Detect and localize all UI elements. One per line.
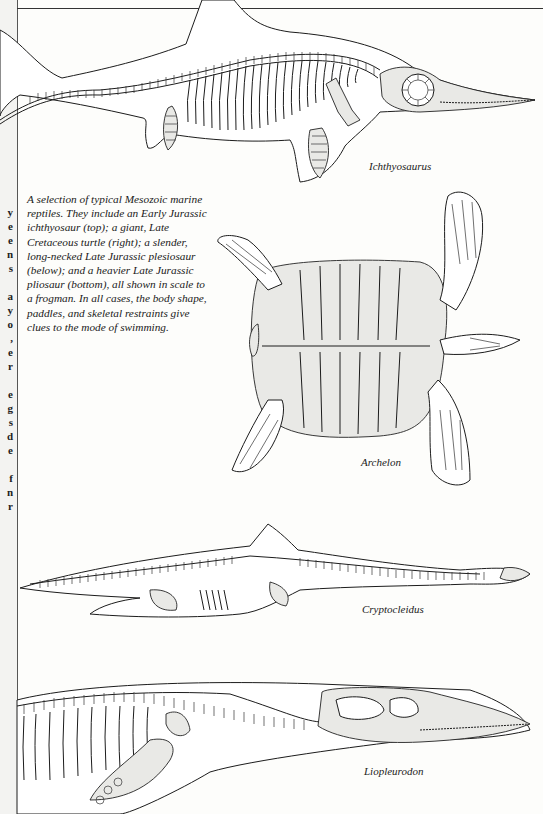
liopleurodon-label: Liopleurodon bbox=[364, 765, 424, 777]
cryptocleidus-drawing bbox=[20, 524, 530, 617]
archelon-label: Archelon bbox=[361, 456, 401, 468]
archelon-drawing bbox=[218, 192, 520, 485]
figure-caption: A selection of typical Mesozoic marine r… bbox=[27, 192, 207, 334]
ichthyosaurus-drawing bbox=[0, 0, 535, 182]
liopleurodon-drawing bbox=[17, 683, 530, 814]
illustration-canvas bbox=[0, 0, 543, 814]
ichthyosaurus-label: Ichthyosaurus bbox=[369, 160, 431, 172]
cryptocleidus-label: Cryptocleidus bbox=[362, 603, 424, 615]
